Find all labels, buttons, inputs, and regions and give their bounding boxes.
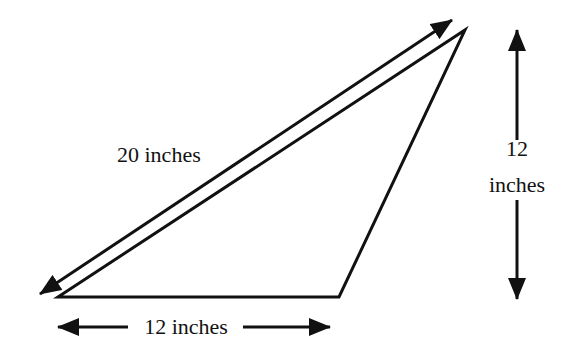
base-label: 12 inches xyxy=(144,314,228,339)
diagram-canvas: 20 inches 12 inches 12 inches xyxy=(0,0,582,356)
triangle-diagram: 20 inches 12 inches 12 inches xyxy=(0,0,582,356)
height-label-number: 12 xyxy=(506,136,528,161)
hypotenuse-label: 20 inches xyxy=(117,142,201,167)
hypotenuse-dimension-arrow xyxy=(40,20,452,294)
height-label-unit: inches xyxy=(489,172,545,197)
